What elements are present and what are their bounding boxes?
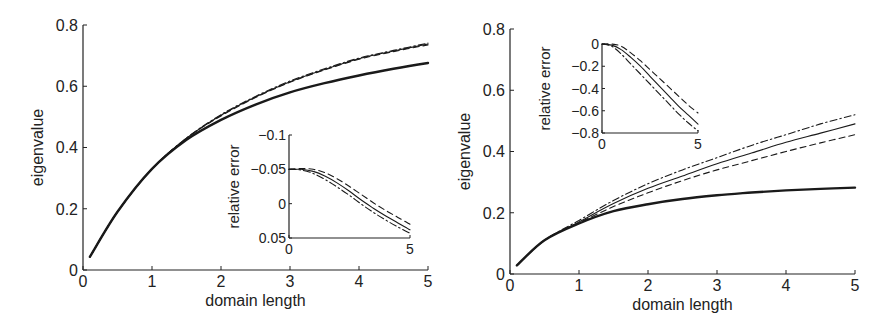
left-inset-y-tick-label: −0.1 — [258, 127, 286, 143]
right-x-tick-label: 0 — [506, 277, 515, 294]
right-x-tick-label: 5 — [851, 277, 860, 294]
right-inset-series-dash-dot — [602, 44, 698, 131]
left-inset-x-tick-label: 5 — [406, 241, 414, 257]
left-inset: 050.050−0.05−0.1relative error — [225, 127, 414, 257]
left-y-tick-label: 0.6 — [56, 78, 78, 95]
right-inset-y-axis-label: relative error — [536, 46, 553, 130]
right-inset-x-tick-label: 5 — [694, 136, 702, 152]
left-series-solid — [90, 44, 428, 257]
left-x-tick-label: 0 — [79, 273, 88, 290]
right-inset-x-tick-label: 0 — [598, 136, 606, 152]
left-x-tick-label: 2 — [217, 273, 226, 290]
right-inset: 050−0.2−0.4−0.6−0.8relative error — [536, 36, 702, 152]
left-inset-series-solid — [289, 169, 410, 230]
right-series-dashed — [517, 135, 855, 266]
right-y-tick-label: 0.6 — [483, 82, 505, 99]
right-x-tick-label: 3 — [713, 277, 722, 294]
left-inset-y-tick-label: −0.05 — [251, 161, 287, 177]
right-x-tick-label: 1 — [575, 277, 584, 294]
figure: 01234500.20.40.60.8domain lengtheigenval… — [0, 0, 884, 332]
left-inset-x-tick-label: 0 — [285, 241, 293, 257]
left-x-tick-label: 3 — [286, 273, 295, 290]
left-x-tick-label: 5 — [424, 273, 433, 290]
left-series-thick-solid — [90, 63, 428, 257]
left-x-tick-label: 4 — [355, 273, 364, 290]
left-inset-series-dashed — [289, 169, 410, 225]
right-inset-y-tick-label: −0.4 — [571, 81, 599, 97]
right-inset-y-tick-label: −0.2 — [571, 58, 599, 74]
right-inset-y-tick-label: −0.8 — [571, 125, 599, 141]
left-series-dash-dot — [90, 43, 428, 257]
left-y-tick-label: 0.4 — [56, 139, 78, 156]
right-y-tick-label: 0.8 — [483, 21, 505, 38]
left-series-dashed — [90, 45, 428, 257]
right-y-tick-label: 0 — [496, 266, 505, 283]
left-inset-y-axis-label: relative error — [225, 144, 242, 228]
right-panel: 01234500.20.40.60.8domain lengtheigenval… — [456, 21, 860, 313]
left-y-tick-label: 0 — [69, 262, 78, 279]
right-x-tick-label: 4 — [782, 277, 791, 294]
right-y-axis-label: eigenvalue — [456, 113, 473, 191]
right-series-solid — [517, 124, 855, 266]
left-y-tick-label: 0.8 — [56, 17, 78, 34]
right-inset-y-tick-label: 0 — [591, 36, 599, 52]
left-x-axis-label: domain length — [205, 292, 306, 309]
right-x-tick-label: 2 — [644, 277, 653, 294]
right-inset-y-tick-label: −0.6 — [571, 103, 599, 119]
right-x-axis-label: domain length — [632, 296, 733, 313]
left-y-tick-label: 0.2 — [56, 201, 78, 218]
left-inset-series-dash-dot — [289, 169, 410, 233]
right-y-tick-label: 0.2 — [483, 205, 505, 222]
left-y-axis-label: eigenvalue — [29, 109, 46, 187]
right-y-tick-label: 0.4 — [483, 143, 505, 160]
left-inset-y-tick-label: 0.05 — [259, 230, 286, 246]
left-panel: 01234500.20.40.60.8domain lengtheigenval… — [29, 17, 433, 309]
left-x-tick-label: 1 — [148, 273, 157, 290]
right-inset-series-dashed — [602, 44, 698, 113]
left-inset-y-tick-label: 0 — [278, 196, 286, 212]
